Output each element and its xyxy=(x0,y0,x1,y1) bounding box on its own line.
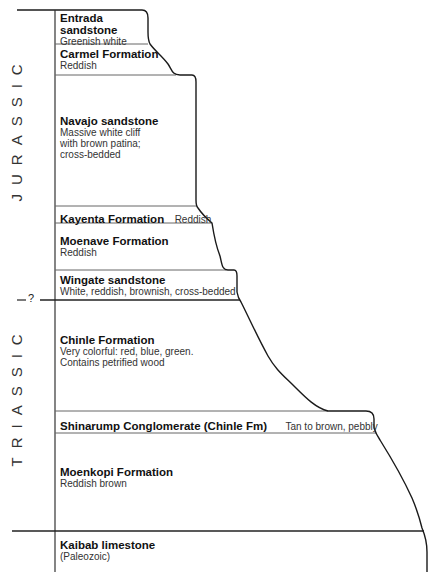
layer-wingate-sandstone: Wingate sandstone White, reddish, browni… xyxy=(60,274,236,297)
layer-name: Wingate sandstone xyxy=(60,274,236,286)
layer-description: Reddish xyxy=(175,214,212,225)
layer-description: Reddish xyxy=(60,247,169,258)
layer-name: Moenkopi Formation xyxy=(60,466,173,478)
layer-name-line2: sandstone xyxy=(60,24,127,36)
layer-shinarump-conglomerate: Shinarump Conglomerate (Chinle Fm) Tan t… xyxy=(60,416,378,434)
layer-description-line2: Contains petrified wood xyxy=(60,357,193,368)
layer-name: Entrada xyxy=(60,12,127,24)
layer-carmel-formation: Carmel Formation Reddish xyxy=(60,48,158,71)
layer-name: Navajo sandstone xyxy=(60,115,158,127)
layer-name: Moenave Formation xyxy=(60,235,169,247)
layer-name: Kaibab limestone xyxy=(60,539,155,551)
layer-entrada-sandstone: Entrada sandstone Greenish white xyxy=(60,12,127,47)
jurassic-text: JURASSIC xyxy=(8,55,25,201)
layer-description-line1: Very colorful: red, blue, green. xyxy=(60,346,193,357)
uncertain-boundary-marker: ? xyxy=(28,292,34,304)
layer-description: Reddish xyxy=(60,60,158,71)
layer-description: Tan to brown, pebbly xyxy=(285,421,377,432)
layer-name: Chinle Formation xyxy=(60,334,193,346)
triassic-text: TRIASSIC xyxy=(8,325,25,466)
layer-name: Kayenta Formation xyxy=(60,213,164,225)
layer-navajo-sandstone: Navajo sandstone Massive white cliff wit… xyxy=(60,115,158,160)
layer-moenkopi-formation: Moenkopi Formation Reddish brown xyxy=(60,466,173,489)
layer-description: White, reddish, brownish, cross-bedded xyxy=(60,286,236,297)
layer-description-line2: with brown patina; xyxy=(60,138,158,149)
layer-kaibab-limestone: Kaibab limestone (Paleozoic) xyxy=(60,539,155,562)
layer-description: Greenish white xyxy=(60,36,127,47)
layer-description: (Paleozoic) xyxy=(60,551,155,562)
layer-name: Carmel Formation xyxy=(60,48,158,60)
layer-moenave-formation: Moenave Formation Reddish xyxy=(60,235,169,258)
layer-description: Reddish brown xyxy=(60,478,173,489)
layer-name: Shinarump Conglomerate (Chinle Fm) xyxy=(60,420,267,432)
layer-description-line3: cross-bedded xyxy=(60,149,158,160)
layer-description-line1: Massive white cliff xyxy=(60,127,158,138)
layer-kayenta-formation: Kayenta Formation Reddish xyxy=(60,209,211,227)
layer-chinle-formation: Chinle Formation Very colorful: red, blu… xyxy=(60,334,193,368)
period-label-triassic: TRIASSIC xyxy=(8,367,25,467)
period-label-jurassic: JURASSIC xyxy=(8,102,25,202)
